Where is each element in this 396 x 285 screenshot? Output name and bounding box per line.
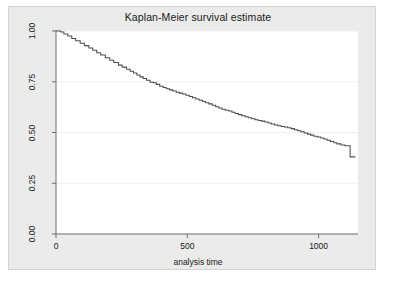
x-tick-label: 500 [167,241,207,251]
figure-canvas: Kaplan-Meier survival estimate 0.000.250… [0,0,396,285]
y-tick-label: 0.75 [26,67,38,97]
y-tick-label: 0.50 [26,118,38,148]
x-tick-label: 1000 [299,241,339,251]
x-tick-label: 0 [36,241,76,251]
y-tick-label: 0.25 [26,168,38,198]
y-tick-label: 1.00 [26,16,38,46]
x-axis-label: analysis time [0,257,396,267]
tick-marks [52,31,319,238]
survival-curve [56,31,355,157]
gridlines [56,31,358,234]
